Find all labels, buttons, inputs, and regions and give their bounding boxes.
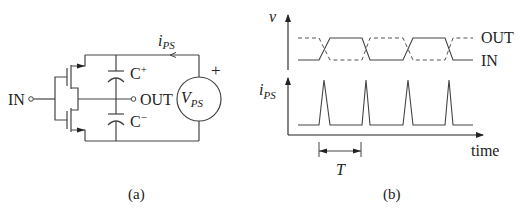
i-axis-label: iPS xyxy=(259,81,276,101)
current-label: iPS xyxy=(158,32,175,51)
v-axis-label: v xyxy=(269,8,277,25)
output-label: OUT xyxy=(140,91,173,108)
caption-a: (a) xyxy=(128,186,145,203)
period-arrow-right-icon xyxy=(353,149,361,154)
source-polarity-plus: + xyxy=(211,61,221,80)
time-axis-label: time xyxy=(471,142,499,159)
figure: IN OUT C+ C− VPS + iPS (a) v iPS OUT IN … xyxy=(0,0,520,209)
cap-plus-label: C+ xyxy=(130,63,147,82)
input-terminal xyxy=(29,97,34,102)
period-label: T xyxy=(336,161,346,178)
period-arrow-left-icon xyxy=(319,149,327,154)
legend-in-label: IN xyxy=(481,52,498,69)
inverter-circuit: IN OUT C+ C− VPS + iPS (a) xyxy=(8,32,221,203)
pmos-arrow-icon xyxy=(77,64,85,69)
gate-wiring xyxy=(55,77,67,120)
waveform-plot: v iPS OUT IN time T (b) xyxy=(259,8,514,203)
in-waveform xyxy=(298,38,473,60)
cap-minus-label: C− xyxy=(130,111,147,130)
caption-b: (b) xyxy=(383,186,401,203)
legend-out-label: OUT xyxy=(481,29,514,46)
ips-waveform xyxy=(298,80,473,125)
output-terminal xyxy=(131,97,136,102)
nmos-arrow-icon xyxy=(77,128,85,133)
input-label: IN xyxy=(8,91,25,108)
